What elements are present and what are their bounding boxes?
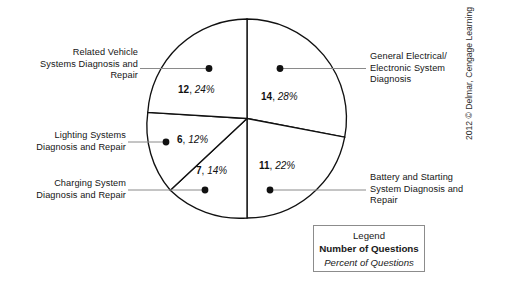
slice-label-related-vehicle[interactable]: Related Vehicle Systems Diagnosis and Re… [14, 47, 138, 82]
slice-percent-lighting-systems: 12% [188, 134, 208, 145]
slice-percent-charging-system: 14% [207, 165, 227, 176]
slice-label-charging-system[interactable]: Charging System Diagnosis and Repair [10, 178, 126, 201]
slice-label-battery-starting[interactable]: Battery and Starting System Diagnosis an… [370, 172, 488, 207]
slice-count-battery-starting: 11 [259, 160, 270, 171]
pie-slice-general-electrical[interactable] [247, 19, 346, 137]
chart-canvas: Related Vehicle Systems Diagnosis and Re… [0, 0, 509, 292]
slice-value-related-vehicle: 12, 24% [178, 84, 215, 96]
slice-label-lighting-systems[interactable]: Lighting Systems Diagnosis and Repair [10, 130, 126, 153]
slice-value-lighting-systems: 6, 12% [177, 134, 208, 146]
leader-dot-charging-system [202, 187, 209, 194]
slice-count-related-vehicle: 12 [178, 84, 189, 95]
slice-value-battery-starting: 11, 22% [259, 160, 295, 172]
slice-percent-related-vehicle: 24% [195, 84, 215, 95]
leader-dot-related-vehicle [206, 65, 213, 72]
slice-percent-battery-starting: 22% [275, 160, 295, 171]
slice-percent-general-electrical: 28% [278, 91, 298, 102]
legend-box: Legend Number of Questions Percent of Qu… [313, 225, 425, 272]
legend-title: Legend [353, 229, 385, 242]
leader-dot-lighting-systems [163, 139, 170, 146]
slice-value-charging-system: 7, 14% [196, 165, 227, 177]
pie-slices [147, 19, 347, 218]
copyright-credit: 2012 © Delmar, Cengage Learning [464, 0, 475, 140]
slice-count-general-electrical: 14 [261, 91, 272, 102]
slice-label-general-electrical[interactable]: General Electrical/ Electronic System Di… [370, 51, 494, 86]
legend-number-of-questions: Number of Questions [319, 242, 419, 256]
leader-dot-general-electrical [277, 65, 284, 72]
slice-value-general-electrical: 14, 28% [261, 91, 298, 103]
legend-percent-of-questions: Percent of Questions [324, 256, 414, 270]
leader-dot-battery-starting [267, 187, 274, 194]
